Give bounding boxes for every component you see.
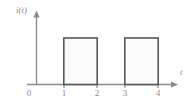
x-axis-arrowhead xyxy=(171,81,178,87)
y-axis-arrowhead xyxy=(33,11,39,18)
x-tick-label-4: 4 xyxy=(151,89,165,98)
y-axis-label: i(t) xyxy=(16,6,27,15)
x-tick-label-0: 0 xyxy=(22,89,36,98)
x-tick-label-2: 2 xyxy=(90,89,104,98)
pulse-rect-2 xyxy=(125,38,158,85)
x-tick-label-1: 1 xyxy=(57,89,71,98)
x-axis-label: t xyxy=(180,68,183,77)
y-axis xyxy=(33,11,39,85)
x-tick-label-3: 3 xyxy=(118,89,132,98)
figure-canvas: i(t) t 0 1 2 3 4 xyxy=(0,0,196,104)
pulse-rect-1 xyxy=(64,38,97,85)
